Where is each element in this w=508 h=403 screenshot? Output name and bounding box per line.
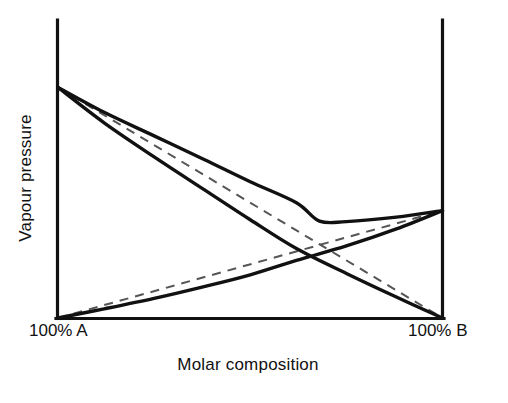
vapour-pressure-chart: Vapour pressure Molar composition 100% A… (0, 0, 508, 403)
series-ideal-partial-pressure-b (58, 211, 443, 318)
y-axis-title: Vapour pressure (16, 68, 36, 288)
series-ideal-partial-pressure-a (58, 87, 443, 318)
chart-plot-area (0, 0, 508, 403)
x-axis-tick-label-right: 100% B (408, 321, 468, 341)
x-axis-tick-label-left: 100% A (29, 321, 88, 341)
x-axis-title: Molar composition (138, 355, 358, 375)
